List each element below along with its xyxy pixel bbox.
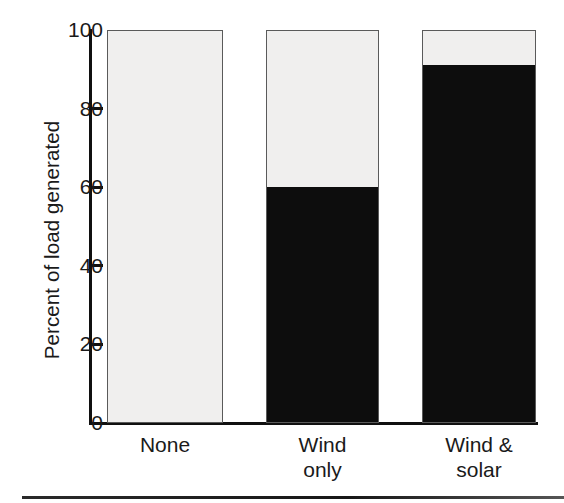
- chart-figure: Percent of load generated 020406080100 N…: [0, 0, 564, 503]
- bar-segment-remaining-load: [107, 30, 223, 423]
- y-axis-tick-label: 0: [17, 412, 103, 433]
- x-axis-label-line: Wind &: [382, 432, 564, 457]
- x-axis-label-wind-solar: Wind &solar: [382, 432, 564, 482]
- y-axis-tick-label: 100: [17, 19, 103, 40]
- y-axis-tick-label: 80: [17, 98, 103, 119]
- bottom-divider-rule: [22, 496, 564, 499]
- bar-wind-solar: [422, 30, 536, 423]
- y-axis-tick-label: 20: [17, 333, 103, 354]
- bar-segment-remaining-load: [266, 30, 379, 187]
- bar-segment-remaining-load: [422, 30, 536, 65]
- y-axis-tick-label: 60: [17, 176, 103, 197]
- x-axis-label-line: solar: [382, 457, 564, 482]
- bar-segment-load-generated: [422, 65, 536, 423]
- y-axis-tick-label: 40: [17, 255, 103, 276]
- bar-segment-load-generated: [266, 187, 379, 423]
- y-axis-line: [89, 29, 92, 425]
- bar-wind-only: [266, 30, 379, 423]
- bar-none: [107, 30, 223, 423]
